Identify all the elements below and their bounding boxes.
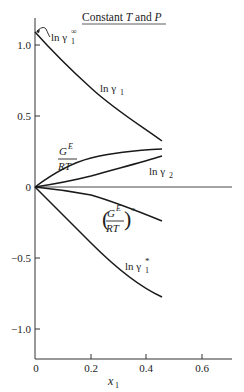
svg-text:∞: ∞ [71,27,77,36]
svg-text:*: * [145,256,150,266]
svg-text:−0.5: −0.5 [11,252,31,264]
svg-text:ln γ: ln γ [100,82,116,94]
x-axis [35,354,232,359]
series-ge-rt-star [35,187,162,221]
svg-text:−1.0: −1.0 [11,323,31,335]
series-ge-rt [35,149,162,187]
svg-text:0.4: 0.4 [139,362,153,374]
label-ln-gamma1-star: ln γ 1 * [125,256,150,275]
series-ln-gamma1 [35,32,162,141]
svg-text:1: 1 [120,88,124,97]
svg-text:0: 0 [26,181,32,193]
x-tick-labels: 0 0.2 0.4 0.6 [33,362,209,374]
svg-text:Constant T and P: Constant T and P [82,11,162,23]
svg-text:E: E [67,142,73,151]
svg-text:0.2: 0.2 [84,362,98,374]
svg-text:1: 1 [145,266,149,275]
chart: Constant T and P 1.0 0.5 0 −0.5 −1.0 0 0… [0,0,244,392]
chart-title: Constant T and P [82,11,166,24]
label-ln-gamma2: ln γ 2 [149,165,173,180]
svg-text:ln γ: ln γ [149,165,165,177]
svg-text:0.6: 0.6 [195,362,209,374]
svg-text:2: 2 [169,171,173,180]
svg-text:1: 1 [71,37,75,46]
label-ge-rt-star: ( G E RT ) * [102,204,136,234]
label-ln-gamma1: ln γ 1 [100,82,124,97]
y-tick-labels: 1.0 0.5 0 −0.5 −1.0 [11,39,31,335]
series-ln-gamma2 [35,156,162,187]
label-ge-rt: G E RT [57,142,77,172]
series-ln-gamma1-star [35,187,162,297]
svg-text:1.0: 1.0 [17,39,31,51]
svg-text:*: * [131,206,136,216]
svg-text:1: 1 [115,381,119,390]
svg-text:ln γ: ln γ [51,31,67,43]
svg-text:ln γ: ln γ [125,260,141,272]
annotation-ln-gamma1-inf: ln γ 1 ∞ [36,27,77,46]
svg-text:0: 0 [33,362,39,374]
svg-text:RT: RT [105,222,120,234]
svg-text:G: G [59,145,67,157]
svg-text:0.5: 0.5 [17,110,31,122]
svg-text:RT: RT [57,160,72,172]
svg-text:x: x [107,374,114,388]
svg-text:E: E [115,204,121,213]
svg-text:G: G [107,207,115,219]
x-axis-label: x 1 [107,374,119,390]
